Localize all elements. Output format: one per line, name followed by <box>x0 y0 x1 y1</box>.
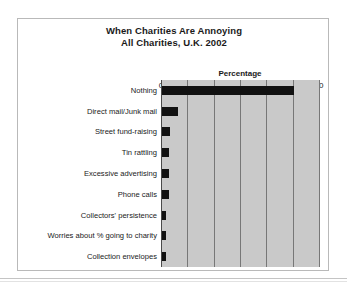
chart-title-line2: All Charities, U.K. 2002 <box>18 37 330 49</box>
x-axis-title: Percentage <box>161 69 319 78</box>
category-label: Direct mail/Junk mail <box>18 107 160 116</box>
gridline <box>214 80 215 267</box>
plot-area <box>161 80 320 267</box>
category-label: Street fund-raising <box>18 127 160 136</box>
gridline <box>293 80 294 267</box>
bar <box>162 127 170 136</box>
gridline <box>266 80 267 267</box>
page-divider-rule-secondary <box>0 281 347 282</box>
page-divider-rule <box>0 278 347 279</box>
category-label: Nothing <box>18 86 160 95</box>
bar <box>162 169 169 178</box>
chart-title-line1: When Charities Are Annoying <box>18 25 330 37</box>
bar <box>162 148 169 157</box>
y-axis-category-labels: NothingDirect mail/Junk mailStreet fund-… <box>18 80 160 267</box>
bar <box>162 190 169 199</box>
gridline <box>319 80 320 267</box>
figure-frame: When Charities Are Annoying All Charitie… <box>17 18 329 271</box>
gridline <box>240 80 241 267</box>
category-label: Excessive advertising <box>18 169 160 178</box>
bar <box>162 252 166 261</box>
bar <box>162 86 294 95</box>
category-label: Worries about % going to charity <box>18 231 160 240</box>
bar <box>162 211 166 220</box>
category-label: Collection envelopes <box>18 252 160 261</box>
chart-title: When Charities Are Annoying All Charitie… <box>18 25 330 49</box>
category-label: Collectors' persistence <box>18 211 160 220</box>
bar <box>162 231 166 240</box>
category-label: Phone calls <box>18 190 160 199</box>
gridline <box>187 80 188 267</box>
bar <box>162 107 178 116</box>
category-label: Tin rattling <box>18 148 160 157</box>
